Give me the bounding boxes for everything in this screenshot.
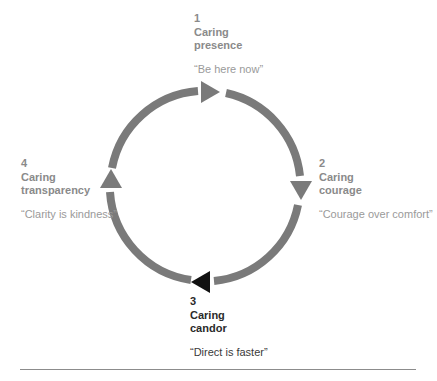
stage-title: Caring (190, 309, 268, 323)
stage-number: 3 (190, 295, 268, 309)
ring-arc-2-to-3 (214, 205, 298, 281)
stage-subtitle: transparency (21, 184, 117, 198)
stage-subtitle: courage (319, 184, 433, 198)
ring-arc-3-to-4 (110, 192, 191, 280)
stage-title: Caring (21, 171, 117, 185)
stage-caring-presence: 1 Caring presence “Be here now” (194, 12, 263, 76)
ring-arc-4-to-1 (112, 91, 198, 168)
horizontal-divider (20, 369, 416, 370)
stage-title: Caring (194, 26, 263, 40)
stage-number: 4 (21, 157, 117, 171)
stage-title: Caring (319, 171, 433, 185)
stage-caring-candor: 3 Caring candor “Direct is faster” (190, 295, 268, 359)
stage-quote: “Be here now” (194, 63, 263, 77)
ring-arc-1-to-2 (226, 93, 300, 176)
stage-caring-transparency: 4 Caring transparency “Clarity is kindne… (21, 157, 117, 221)
stage-subtitle: candor (190, 322, 268, 336)
stage-quote: “Direct is faster” (190, 346, 268, 360)
stage-number: 1 (194, 12, 263, 26)
arrow-right-icon (201, 81, 220, 103)
stage-number: 2 (319, 157, 433, 171)
stage-quote: “Clarity is kindness” (21, 208, 117, 222)
cycle-ring (110, 91, 300, 281)
arrow-down-icon (290, 181, 312, 200)
stage-subtitle: presence (194, 39, 263, 53)
stage-caring-courage: 2 Caring courage “Courage over comfort” (319, 157, 433, 221)
arrow-left-icon (191, 271, 210, 293)
stage-quote: “Courage over comfort” (319, 208, 433, 222)
